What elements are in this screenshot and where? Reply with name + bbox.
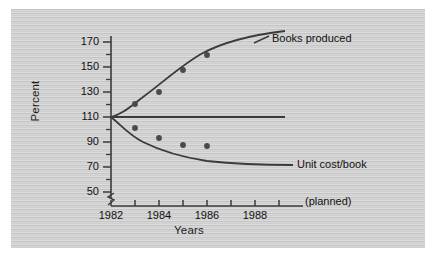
- y-tick-label-90: 90: [63, 135, 99, 147]
- y-tick-label-170: 170: [63, 35, 99, 47]
- y-tick-label-130: 130: [63, 85, 99, 97]
- x-tick-label-1984: 1984: [139, 209, 179, 221]
- y-axis-major-ticks: [103, 42, 111, 192]
- y-tick-label-70: 70: [63, 160, 99, 172]
- x-axis-ticks: [111, 200, 279, 206]
- y-tick-label-150: 150: [63, 60, 99, 72]
- chart-figure: Percent Years Books produced Unit cost/b…: [11, 9, 425, 248]
- leader-line-books-produced: [254, 36, 269, 43]
- x-tick-label-1988: 1988: [235, 209, 275, 221]
- series-markers-unit-cost-book: [132, 125, 210, 149]
- series-markers-books-produced: [132, 52, 210, 107]
- y-tick-label-110: 110: [63, 110, 99, 122]
- x-tick-label-1986: 1986: [187, 209, 227, 221]
- x-tick-label-1982: 1982: [91, 209, 131, 221]
- series-line-unit-cost-book: [111, 117, 293, 165]
- y-tick-label-50: 50: [63, 185, 99, 197]
